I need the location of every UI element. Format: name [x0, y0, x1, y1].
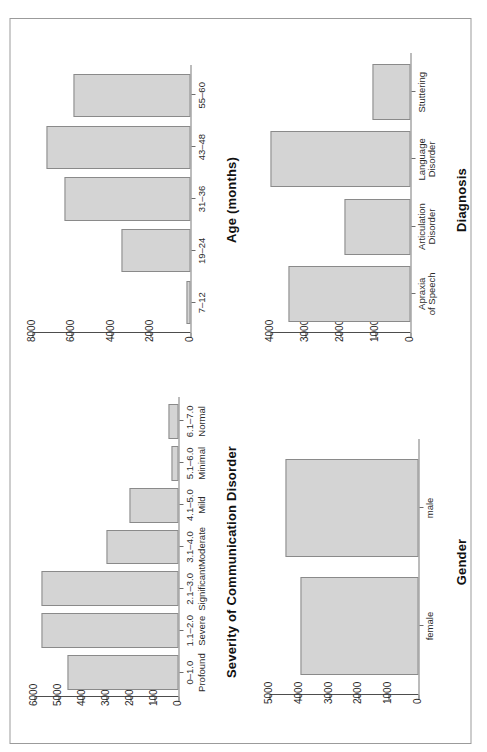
- category-tick-severity-4: [179, 504, 183, 505]
- chart-panel-age: 020004000600080007–1219–2431–3643–4855–6…: [10, 19, 240, 381]
- bar-age-3: [46, 126, 190, 169]
- plot-area-age: 020004000600080007–1219–2431–3643–4855–6…: [10, 19, 240, 381]
- category-sublabel-severity-6: Normal: [196, 379, 206, 463]
- category-tick-diagnosis-2: [411, 158, 415, 159]
- plot-area-diagnosis: 01000200030004000Apraxia of SpeechArticu…: [240, 19, 470, 381]
- bar-severity-4: [129, 488, 178, 523]
- category-tick-severity-1: [179, 630, 183, 631]
- category-label-gender-1: male: [424, 466, 434, 550]
- axis-title-gender: Gender: [453, 381, 468, 743]
- bar-diagnosis-2: [270, 131, 410, 187]
- bar-age-4: [73, 74, 190, 117]
- bar-age-2: [64, 177, 190, 220]
- category-tick-age-3: [191, 146, 195, 147]
- bar-gender-1: [285, 459, 418, 557]
- category-tick-diagnosis-0: [411, 293, 415, 294]
- bar-severity-6: [168, 404, 178, 439]
- figure-rotator: 01000200030004000500060000–1.0Profound1.…: [0, 0, 487, 752]
- bar-age-0: [186, 281, 190, 324]
- bar-diagnosis-3: [372, 64, 410, 120]
- bar-severity-2: [41, 571, 178, 606]
- bar-severity-3: [106, 530, 178, 565]
- category-tick-severity-5: [179, 462, 183, 463]
- bar-severity-1: [41, 613, 178, 648]
- bar-diagnosis-0: [288, 266, 410, 322]
- axis-title-age: Age (months): [223, 19, 238, 381]
- category-tick-gender-1: [419, 507, 423, 508]
- category-tick-gender-0: [419, 625, 423, 626]
- bar-age-1: [121, 229, 190, 272]
- category-tick-severity-2: [179, 588, 183, 589]
- category-tick-diagnosis-3: [411, 91, 415, 92]
- axis-title-diagnosis: Diagnosis: [453, 19, 468, 381]
- category-tick-age-4: [191, 94, 195, 95]
- category-label-diagnosis-3: Stuttering: [416, 50, 426, 134]
- category-label-severity-6: 6.1–7.0: [184, 379, 194, 463]
- axis-title-severity: Severity of Communication Disorder: [223, 381, 238, 743]
- plot-area-severity: 01000200030004000500060000–1.0Profound1.…: [10, 381, 240, 743]
- category-tick-age-1: [191, 250, 195, 251]
- plot-area-gender: 010002000300040005000femalemaleGender: [240, 381, 470, 743]
- bar-severity-5: [171, 446, 178, 481]
- chart-panel-gender: 010002000300040005000femalemaleGender: [240, 381, 470, 743]
- chart-panel-severity: 01000200030004000500060000–1.0Profound1.…: [10, 381, 240, 743]
- bar-severity-0: [67, 655, 178, 690]
- category-tick-severity-0: [179, 672, 183, 673]
- bar-diagnosis-1: [344, 199, 410, 255]
- figure-frame: 01000200030004000500060000–1.0Profound1.…: [9, 18, 471, 744]
- bar-gender-0: [300, 577, 418, 675]
- category-tick-severity-3: [179, 546, 183, 547]
- panel-grid: 01000200030004000500060000–1.0Profound1.…: [10, 19, 470, 743]
- category-label-gender-0: female: [424, 584, 434, 668]
- chart-panel-diagnosis: 01000200030004000Apraxia of SpeechArticu…: [240, 19, 470, 381]
- category-tick-diagnosis-1: [411, 226, 415, 227]
- category-label-age-4: 55–60: [196, 53, 206, 137]
- category-tick-age-2: [191, 198, 195, 199]
- category-tick-severity-6: [179, 420, 183, 421]
- category-tick-age-0: [191, 302, 195, 303]
